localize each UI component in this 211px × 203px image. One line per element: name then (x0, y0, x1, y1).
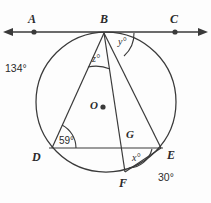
geometry-figure: A B C O D E F G z° y° x° 59° 134° 30° (0, 0, 211, 203)
point-A-dot (31, 29, 36, 34)
arc-label-BD: 134° (5, 62, 27, 74)
tangent-left-arrowhead (3, 28, 13, 36)
point-label-E: E (167, 148, 175, 163)
point-label-C: C (170, 12, 178, 27)
point-label-D: D (32, 150, 41, 165)
angle-label-x: x° (132, 152, 140, 163)
point-label-O: O (90, 99, 98, 111)
center-O-dot (100, 104, 105, 109)
point-label-B: B (100, 12, 108, 27)
angle-label-y: y° (118, 36, 126, 47)
angle-arc-z (88, 66, 110, 69)
point-label-G: G (126, 128, 134, 140)
point-label-F: F (119, 176, 127, 191)
chord-BD (52, 33, 104, 148)
angle-label-z: z° (92, 53, 100, 64)
figure-svg (0, 0, 211, 203)
circle-O (36, 32, 176, 172)
tangent-right-arrowhead (198, 28, 208, 36)
arc-label-FE: 30° (158, 171, 174, 183)
angle-label-59: 59° (59, 135, 74, 146)
point-label-A: A (28, 12, 36, 27)
point-C-dot (172, 29, 177, 34)
